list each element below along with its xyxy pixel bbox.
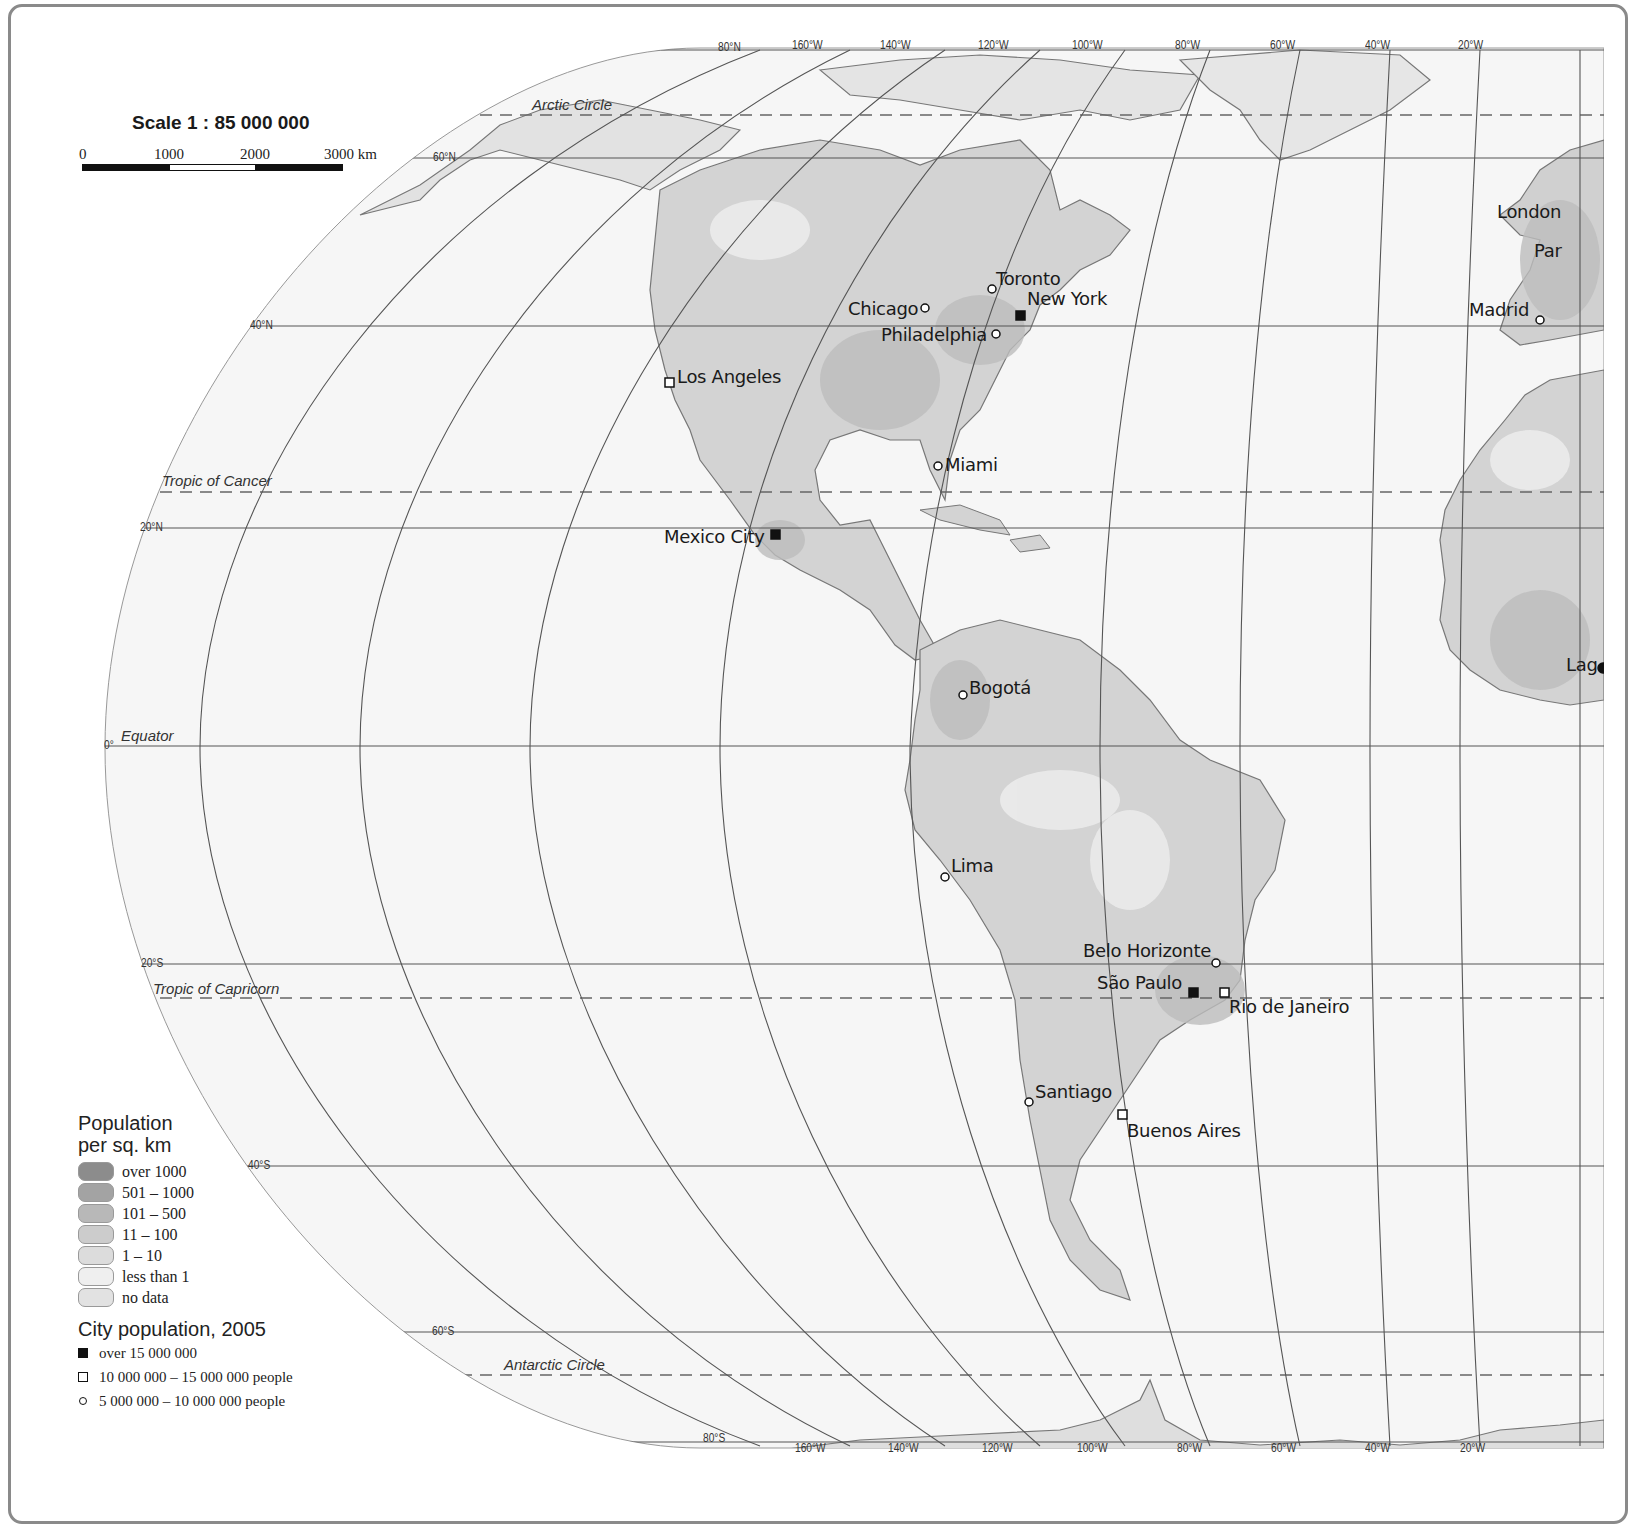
- open-circle-icon: [79, 1397, 87, 1405]
- lon-label-top: 100°W: [1072, 38, 1103, 52]
- city-marker-bogota: [959, 691, 967, 699]
- city-label-paris[interactable]: Par: [1534, 240, 1562, 261]
- city-label-miami[interactable]: Miami: [945, 454, 998, 475]
- city-label-toronto[interactable]: Toronto: [996, 268, 1060, 289]
- lon-label-top: 80°W: [1175, 38, 1200, 52]
- city-label-los-angeles[interactable]: Los Angeles: [677, 366, 781, 387]
- city-marker-toronto: [988, 285, 996, 293]
- city-label-santiago[interactable]: Santiago: [1035, 1081, 1112, 1102]
- legend-row-city: 5 000 000 – 10 000 000 people: [78, 1389, 398, 1413]
- city-marker-lima: [941, 873, 949, 881]
- legend-row-city: over 15 000 000: [78, 1341, 398, 1365]
- lon-label-bottom: 60°W: [1271, 1441, 1296, 1455]
- legend-label: 5 000 000 – 10 000 000 people: [99, 1393, 285, 1410]
- scale-bar-segment: [169, 164, 256, 171]
- density-legend-title: Population: [78, 1112, 398, 1134]
- lat-label: 20°S: [141, 956, 163, 970]
- city-legend-title: City population, 2005: [78, 1318, 398, 1341]
- legend-label: less than 1: [122, 1268, 190, 1286]
- city-label-lagos[interactable]: Lag: [1566, 654, 1598, 675]
- city-label-philadelphia[interactable]: Philadelphia: [881, 324, 987, 345]
- city-label-lima[interactable]: Lima: [951, 855, 993, 876]
- city-label-rio-de-janeiro[interactable]: Rio de Janeiro: [1229, 996, 1349, 1017]
- scale-title: Scale 1 : 85 000 000: [132, 112, 309, 134]
- city-label-madrid[interactable]: Madrid: [1469, 299, 1529, 320]
- legend-row-city: 10 000 000 – 15 000 000 people: [78, 1365, 398, 1389]
- city-marker-belo-horizonte: [1212, 959, 1220, 967]
- lat-label: 20°N: [140, 520, 163, 534]
- city-marker-madrid: [1536, 316, 1544, 324]
- lat-label: 80°S: [703, 1431, 725, 1445]
- city-label-chicago[interactable]: Chicago: [848, 298, 918, 319]
- city-marker-philadelphia: [992, 330, 1000, 338]
- open-square-icon: [78, 1372, 88, 1382]
- lon-label-bottom: 140°W: [888, 1441, 919, 1455]
- lon-label-top: 160°W: [792, 38, 823, 52]
- swatch: [78, 1204, 114, 1223]
- city-marker-rio: [1220, 988, 1229, 997]
- swatch: [78, 1183, 114, 1202]
- swatch: [78, 1162, 114, 1181]
- lon-label-top: 20°W: [1458, 38, 1483, 52]
- legend-row-density: 501 – 1000: [78, 1182, 398, 1203]
- scale-bar-segment: [82, 164, 169, 171]
- legend-label: 101 – 500: [122, 1205, 186, 1223]
- city-marker-mexico-city: [771, 530, 780, 539]
- city-marker-lagos: [1598, 663, 1604, 673]
- city-label-buenos-aires[interactable]: Buenos Aires: [1127, 1120, 1241, 1141]
- scale-tick: 3000 km: [324, 146, 377, 163]
- swatch: [78, 1225, 114, 1244]
- legend-label: over 15 000 000: [99, 1345, 197, 1362]
- swatch: [78, 1288, 114, 1307]
- city-label-belo-horizonte[interactable]: Belo Horizonte: [1083, 940, 1211, 961]
- density-legend-subtitle: per sq. km: [78, 1134, 398, 1156]
- legend-row-density: 11 – 100: [78, 1224, 398, 1245]
- lat-label: 80°N: [718, 40, 741, 54]
- legend-row-density: less than 1: [78, 1266, 398, 1287]
- filled-square-icon: [78, 1348, 88, 1358]
- label-tropic-cancer: Tropic of Cancer: [162, 472, 272, 489]
- legend-row-density: over 1000: [78, 1161, 398, 1182]
- lon-label-bottom: 20°W: [1460, 1441, 1485, 1455]
- city-label-new-york[interactable]: New York: [1027, 288, 1107, 309]
- city-marker-new-york: [1016, 311, 1025, 320]
- lon-label-top: 40°W: [1365, 38, 1390, 52]
- legend-label: 11 – 100: [122, 1226, 177, 1244]
- city-marker-chicago: [921, 304, 929, 312]
- lat-label: 40°N: [250, 318, 273, 332]
- scale-bar-segment: [256, 164, 343, 171]
- city-label-london[interactable]: London: [1497, 201, 1561, 222]
- city-marker-los-angeles: [665, 378, 674, 387]
- lon-label-bottom: 80°W: [1177, 1441, 1202, 1455]
- lon-label-top: 60°W: [1270, 38, 1295, 52]
- legend-row-density: 101 – 500: [78, 1203, 398, 1224]
- lon-label-bottom: 120°W: [982, 1441, 1013, 1455]
- legend-row-density: 1 – 10: [78, 1245, 398, 1266]
- legend: Population per sq. km over 1000 501 – 10…: [78, 1112, 398, 1413]
- lon-label-bottom: 40°W: [1365, 1441, 1390, 1455]
- city-marker-buenos-aires: [1118, 1110, 1127, 1119]
- legend-label: over 1000: [122, 1163, 186, 1181]
- city-label-sao-paulo[interactable]: São Paulo: [1097, 972, 1182, 993]
- lon-label-top: 140°W: [880, 38, 911, 52]
- scale-tick: 0: [79, 146, 87, 163]
- label-antarctic-circle: Antarctic Circle: [504, 1356, 605, 1373]
- legend-row-density: no data: [78, 1287, 398, 1308]
- label-equator: Equator: [121, 727, 174, 744]
- city-label-bogota[interactable]: Bogotá: [969, 677, 1031, 698]
- scale-tick: 2000: [240, 146, 270, 163]
- swatch: [78, 1246, 114, 1265]
- legend-label: no data: [122, 1289, 169, 1307]
- city-label-mexico-city[interactable]: Mexico City: [664, 526, 765, 547]
- lat-label: 0°: [104, 738, 114, 752]
- swatch: [78, 1267, 114, 1286]
- scale-tick: 1000: [154, 146, 184, 163]
- legend-label: 501 – 1000: [122, 1184, 194, 1202]
- lon-label-bottom: 160°W: [795, 1441, 826, 1455]
- city-marker-sao-paulo: [1189, 988, 1198, 997]
- city-marker-miami: [934, 462, 942, 470]
- lat-label: 60°S: [432, 1324, 454, 1338]
- lat-label: 60°N: [433, 150, 456, 164]
- lon-label-bottom: 100°W: [1077, 1441, 1108, 1455]
- legend-label: 10 000 000 – 15 000 000 people: [99, 1369, 293, 1386]
